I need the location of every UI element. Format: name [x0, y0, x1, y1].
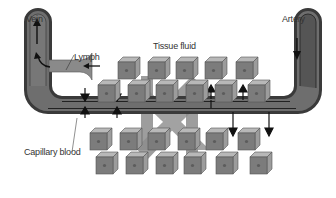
tissue-fluid-label: Tissue fluid — [153, 41, 196, 51]
diagram-canvas — [0, 0, 336, 198]
capillary-blood-label: Capillary blood — [24, 147, 81, 157]
vein-label: Vein — [26, 14, 43, 24]
tissue-fluid-diagram: Vein Artery Lymph Tissue fluid Capillary… — [0, 0, 336, 198]
artery-label: Artery — [282, 14, 305, 24]
lymph-label: Lymph — [74, 52, 100, 62]
artery-inner — [300, 14, 316, 88]
